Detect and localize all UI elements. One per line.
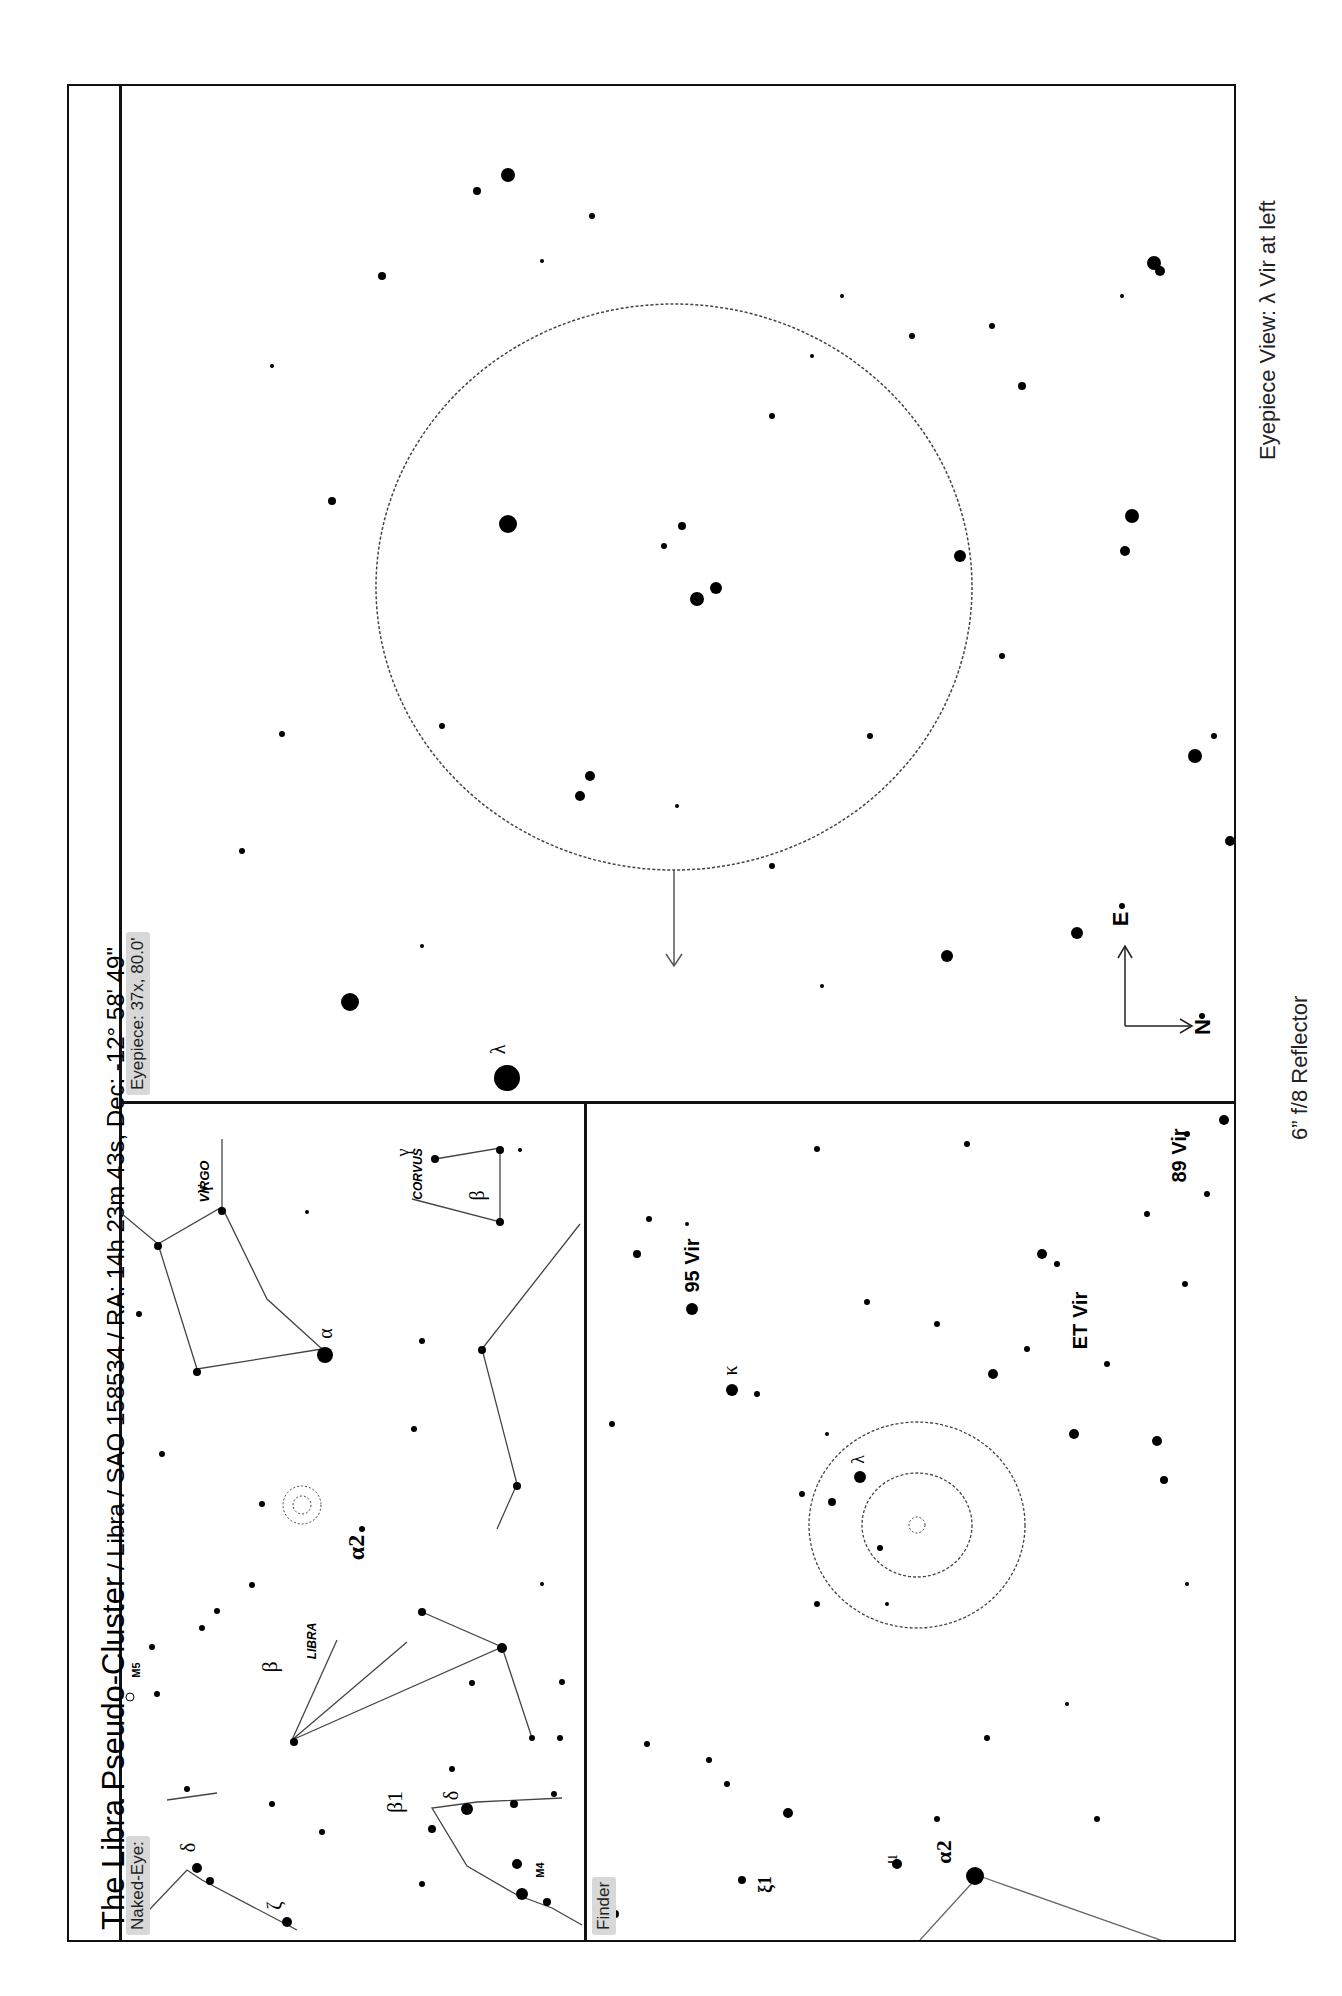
- label-alpha: α: [314, 1328, 337, 1338]
- label-zeta: ζ: [263, 1901, 286, 1909]
- label-beta-libra: β: [257, 1661, 283, 1672]
- label-beta-corvus: β: [466, 1190, 489, 1200]
- eyepiece-tag: Eyepiece: 37x, 80.0': [126, 932, 150, 1095]
- label-gamma-corvus: γ: [393, 1149, 414, 1157]
- finder-starfield: [587, 1104, 1234, 1940]
- eyepiece-view-caption: Eyepiece View: λ Vir at left: [1255, 200, 1281, 460]
- label-et-vir: ET Vir: [1069, 1292, 1092, 1349]
- label-virgo: VIRGO: [197, 1161, 212, 1203]
- label-alpha2: α2: [343, 1535, 370, 1560]
- label-95-vir: 95 Vir: [681, 1238, 704, 1292]
- compass-north-label: N: [1190, 1019, 1216, 1035]
- naked-eye-tag: Naked-Eye:: [126, 1836, 150, 1935]
- label-m5: M5: [130, 1662, 142, 1677]
- naked-eye-starfield: [122, 1104, 584, 1940]
- label-mu: μ: [881, 1855, 902, 1865]
- label-delta-left: δ: [177, 1843, 200, 1852]
- compass-east-label: E: [1108, 912, 1134, 927]
- label-xi1: ξ1: [755, 1876, 776, 1893]
- label-89-vir: 89 Vir: [1168, 1128, 1191, 1182]
- label-libra: LIBRA: [305, 1623, 319, 1660]
- finder-panel: 95 Vir 89 Vir ET Vir κ λ μ ξ1 α2: [587, 1104, 1234, 1940]
- naked-eye-panel: VIRGO CORVUS LIBRA α γ γ β α2 β M5 β1 δ …: [122, 1104, 584, 1940]
- label-m4: M4: [534, 1862, 546, 1877]
- eyepiece-panel: λ E N: [122, 86, 1234, 1101]
- eyepiece-starfield: [122, 86, 1234, 1101]
- finder-tag: Finder: [592, 1877, 616, 1935]
- label-alpha2-finder: α2: [931, 1840, 957, 1863]
- label-lambda: λ: [848, 1455, 869, 1464]
- label-delta-right: δ: [440, 1791, 463, 1800]
- eyepiece-lambda-label: λ: [487, 1045, 510, 1055]
- label-beta1: β1: [382, 1791, 408, 1813]
- label-kappa: κ: [719, 1365, 742, 1375]
- telescope-caption: 6” f/8 Reflector: [1287, 996, 1313, 1140]
- label-gamma-virgo: γ: [190, 1184, 213, 1193]
